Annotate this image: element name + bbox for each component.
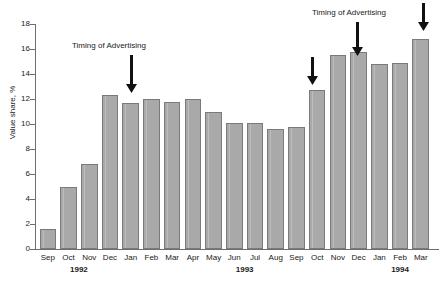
y-axis-title: Value share, % — [8, 68, 17, 158]
bar — [102, 95, 119, 249]
y-axis-tick-label: 16 — [4, 45, 30, 53]
bar — [185, 99, 202, 249]
bar — [412, 39, 429, 249]
x-axis-year-label: 1992 — [63, 265, 95, 274]
bar — [81, 164, 98, 249]
bar — [309, 90, 326, 249]
y-axis-tick: 0 — [0, 245, 30, 253]
y-axis-tick: 16 — [0, 45, 30, 53]
bar — [60, 187, 77, 250]
advertising-timing-arrow-icon — [351, 22, 364, 56]
bar — [40, 229, 57, 249]
advertising-timing-label: Timing of Advertising — [72, 41, 146, 50]
bar — [350, 52, 367, 250]
y-axis-tick: 2 — [0, 220, 30, 228]
bar — [143, 99, 160, 249]
x-axis-year-label: 1993 — [229, 265, 261, 274]
bar — [330, 55, 347, 249]
y-axis-tick-label: 2 — [4, 220, 30, 228]
x-axis-year-label: 1994 — [384, 265, 416, 274]
value-share-bar-chart: 024681012141618 Value share, % SepOctNov… — [0, 0, 442, 289]
bar — [267, 129, 284, 249]
y-axis-tick-mark — [30, 249, 35, 250]
y-axis-tick-label: 4 — [4, 195, 30, 203]
advertising-timing-label: Timing of Advertising — [312, 8, 386, 17]
bars-layer — [35, 24, 439, 249]
y-axis-tick: 6 — [0, 170, 30, 178]
y-axis-tick: 18 — [0, 20, 30, 28]
x-axis-line — [35, 249, 439, 250]
y-axis-tick-label: 0 — [4, 245, 30, 253]
bar — [122, 103, 139, 249]
bar — [288, 127, 305, 250]
advertising-timing-arrow-icon — [306, 57, 319, 85]
y-axis-tick-label: 18 — [4, 20, 30, 28]
bar — [164, 102, 181, 250]
advertising-timing-arrow-icon — [417, 3, 430, 31]
bar — [247, 123, 264, 249]
bar — [226, 123, 243, 249]
bar — [371, 64, 388, 249]
x-axis-month-label: Mar — [408, 253, 434, 262]
bar — [392, 63, 409, 249]
y-axis-tick-label: 6 — [4, 170, 30, 178]
advertising-timing-arrow-icon — [125, 55, 138, 93]
y-axis-tick: 4 — [0, 195, 30, 203]
bar — [205, 112, 222, 250]
